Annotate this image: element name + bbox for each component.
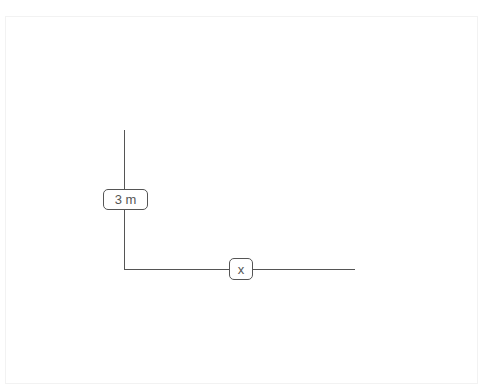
vertical-side-label: 3 m: [103, 189, 148, 210]
horizontal-side-label: x: [229, 258, 253, 280]
diagram-frame: [5, 16, 478, 384]
